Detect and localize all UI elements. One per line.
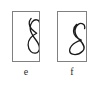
figure-container: e f: [0, 0, 99, 86]
curve-panel-e: [12, 11, 40, 62]
curve-drawing-e: [13, 12, 39, 61]
panel-caption-e: e: [12, 66, 40, 78]
figure-eight-curve-e: [28, 18, 39, 53]
panel-caption-f: f: [57, 66, 87, 78]
curve-drawing-f: [58, 12, 86, 61]
curve-panel-f: [57, 11, 87, 62]
figure-eight-curve-f: [70, 23, 85, 54]
